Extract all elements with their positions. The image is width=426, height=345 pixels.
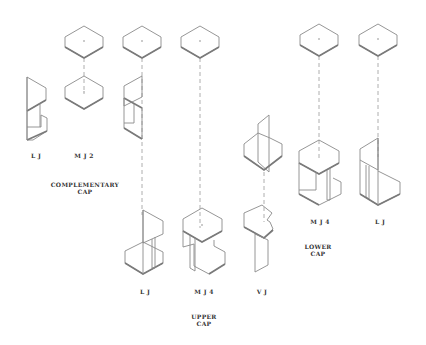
mj4-lower-cap-piece: [299, 140, 341, 205]
hexagon-cap-mj2-top: [65, 26, 103, 58]
mj4-upper-cap-piece: [183, 208, 225, 274]
lj-joint-piece-2: [124, 76, 142, 139]
label-upper-cap: UPPER CAP: [191, 313, 216, 327]
lj-lower-cap-piece: [360, 138, 400, 205]
lj-upper-cap-piece: [125, 210, 163, 274]
label-vj: V J: [257, 288, 267, 295]
label-mj4-lower: M J 4: [310, 218, 329, 225]
label-mj4-upper: M J 4: [194, 288, 213, 295]
label-lj-3: L J: [375, 218, 385, 225]
vj-joint-piece-lower: [244, 205, 273, 272]
label-complementary-cap: COMPLEMENTARY CAP: [51, 181, 119, 195]
hexagon-cap-lj-lower-top: [359, 24, 397, 56]
lj-joint-piece-1: [27, 77, 47, 140]
hexagon-cap-mj4-top: [181, 26, 219, 58]
label-lower-cap: LOWER CAP: [304, 243, 331, 257]
label-lj-1: L J: [31, 152, 41, 159]
hexagon-cap-mj4-lower-top: [300, 24, 338, 56]
label-lj-2: L J: [140, 288, 150, 295]
label-mj2: M J 2: [74, 152, 93, 159]
hexagon-cap-lj-top: [123, 26, 161, 58]
vj-joint-piece-upper: [244, 115, 282, 172]
